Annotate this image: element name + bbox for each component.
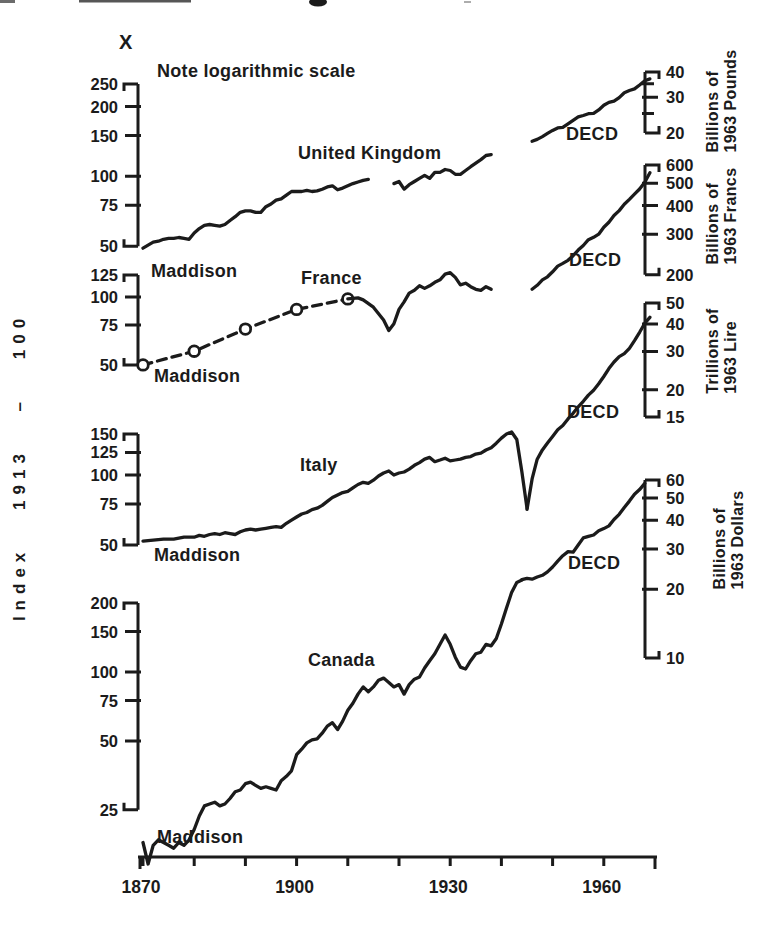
italy-maddison-label: Maddison xyxy=(154,545,240,566)
svg-text:1930: 1930 xyxy=(429,877,468,897)
svg-text:150: 150 xyxy=(90,425,118,443)
italy-unit-line1: Trillions of xyxy=(704,308,722,394)
svg-text:40: 40 xyxy=(666,511,684,529)
svg-text:500: 500 xyxy=(666,174,694,192)
canada-unit-line2: 1963 Dollars xyxy=(729,490,747,589)
svg-text:50: 50 xyxy=(100,536,118,554)
chart-canvas: 2502001501007550403020125100755060050040… xyxy=(0,0,766,925)
svg-text:25: 25 xyxy=(100,801,118,819)
uk-maddison-label: Maddison xyxy=(151,261,237,282)
svg-text:30: 30 xyxy=(666,88,684,106)
svg-text:40: 40 xyxy=(666,315,684,333)
uk-country-label: United Kingdom xyxy=(298,143,441,164)
svg-text:50: 50 xyxy=(100,356,118,374)
france-unit-line2: 1963 Francs xyxy=(722,168,740,265)
index-axis-label: Index 1913 – 100 xyxy=(10,313,30,621)
svg-text:50: 50 xyxy=(100,732,118,750)
uk-decd-label: DECD xyxy=(566,124,618,145)
svg-text:50: 50 xyxy=(666,294,684,312)
france-unit-line1: Billions of xyxy=(704,168,722,265)
svg-text:250: 250 xyxy=(90,75,118,93)
canada-decd-label: DECD xyxy=(568,553,620,574)
italy-unit-label: Trillions of 1963 Lire xyxy=(704,308,740,394)
corner-mark: X xyxy=(119,31,133,54)
canada-country-label: Canada xyxy=(308,650,375,671)
svg-text:150: 150 xyxy=(90,623,118,641)
svg-text:50: 50 xyxy=(666,489,684,507)
scan-artifacts xyxy=(0,0,471,7)
uk-unit-line2: 1963 Pounds xyxy=(722,49,740,152)
svg-text:75: 75 xyxy=(100,196,118,214)
log-scale-note: Note logarithmic scale xyxy=(157,61,356,82)
italy-country-label: Italy xyxy=(300,455,338,476)
svg-text:60: 60 xyxy=(666,471,684,489)
svg-text:150: 150 xyxy=(90,127,118,145)
svg-text:30: 30 xyxy=(666,540,684,558)
svg-text:20: 20 xyxy=(666,124,684,142)
canada-unit-line1: Billions of xyxy=(711,490,729,589)
svg-text:15: 15 xyxy=(666,408,684,426)
svg-text:20: 20 xyxy=(666,580,684,598)
svg-text:200: 200 xyxy=(90,98,118,116)
france-unit-label: Billions of 1963 Francs xyxy=(704,168,740,265)
svg-text:300: 300 xyxy=(666,225,694,243)
france-decd-label: DECD xyxy=(569,250,621,271)
uk-unit-label: Billions of 1963 Pounds xyxy=(704,49,740,152)
svg-text:1960: 1960 xyxy=(582,877,621,897)
svg-text:125: 125 xyxy=(90,443,118,461)
svg-text:100: 100 xyxy=(90,663,118,681)
italy-unit-line2: 1963 Lire xyxy=(722,308,740,394)
france-country-label: France xyxy=(301,268,362,289)
svg-text:125: 125 xyxy=(90,266,118,284)
svg-text:40: 40 xyxy=(666,63,684,81)
svg-text:100: 100 xyxy=(90,167,118,185)
svg-text:10: 10 xyxy=(666,649,684,667)
france-maddison-label: Maddison xyxy=(154,366,240,387)
uk-unit-line1: Billions of xyxy=(704,49,722,152)
svg-text:1900: 1900 xyxy=(275,877,314,897)
canada-maddison-label: Maddison xyxy=(157,827,243,848)
svg-text:20: 20 xyxy=(666,381,684,399)
svg-text:600: 600 xyxy=(666,156,694,174)
italy-decd-label: DECD xyxy=(567,402,619,423)
svg-text:75: 75 xyxy=(100,495,118,513)
svg-text:75: 75 xyxy=(100,692,118,710)
svg-text:400: 400 xyxy=(666,197,694,215)
figure: 2502001501007550403020125100755060050040… xyxy=(0,0,766,925)
svg-text:200: 200 xyxy=(90,594,118,612)
canada-unit-label: Billions of 1963 Dollars xyxy=(711,490,747,589)
svg-text:100: 100 xyxy=(90,466,118,484)
svg-text:50: 50 xyxy=(100,237,118,255)
svg-text:100: 100 xyxy=(90,288,118,306)
svg-text:75: 75 xyxy=(100,316,118,334)
svg-text:30: 30 xyxy=(666,342,684,360)
svg-text:200: 200 xyxy=(666,266,694,284)
svg-text:1870: 1870 xyxy=(122,877,161,897)
